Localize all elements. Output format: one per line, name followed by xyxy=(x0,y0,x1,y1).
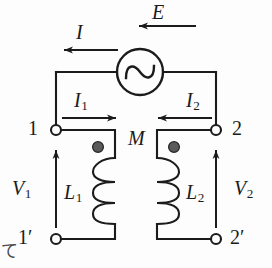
label-terminal-2: 2 xyxy=(232,118,242,138)
terminal-node-1p xyxy=(51,234,61,244)
label-current-I: I xyxy=(76,22,83,42)
scan-artifact-glyph: て xyxy=(1,243,18,260)
wire-secondary-top xyxy=(157,130,211,158)
polarity-dot-L1-icon xyxy=(93,142,104,153)
coil-L1-windings xyxy=(93,158,115,224)
label-voltage-V2: V2 xyxy=(234,178,253,198)
terminal-node-2p xyxy=(211,234,221,244)
label-voltage-V1: V1 xyxy=(12,178,31,198)
ac-source-sine-icon xyxy=(126,66,154,78)
label-inductor-L2: L2 xyxy=(186,182,204,202)
label-source-emf: E xyxy=(152,2,164,22)
circuit-diagram-figure: E I I1 I2 1 1′ 2 2′ V1 V2 L1 L2 M て xyxy=(0,0,272,268)
label-inductor-L1: L1 xyxy=(64,182,82,202)
wire-primary-top xyxy=(61,130,115,158)
label-terminal-2-prime: 2′ xyxy=(230,227,244,247)
label-current-I2: I2 xyxy=(186,90,199,110)
terminal-node-2 xyxy=(211,125,221,135)
wire-secondary-bottom xyxy=(157,224,211,239)
label-terminal-1-prime: 1′ xyxy=(18,227,32,247)
terminal-node-1 xyxy=(51,125,61,135)
label-mutual-inductance-M: M xyxy=(128,128,145,148)
coil-L2-windings xyxy=(157,158,179,224)
label-current-I1: I1 xyxy=(74,90,87,110)
label-terminal-1: 1 xyxy=(28,118,38,138)
polarity-dot-L2-icon xyxy=(169,142,180,153)
wire-primary-bottom xyxy=(61,224,115,239)
